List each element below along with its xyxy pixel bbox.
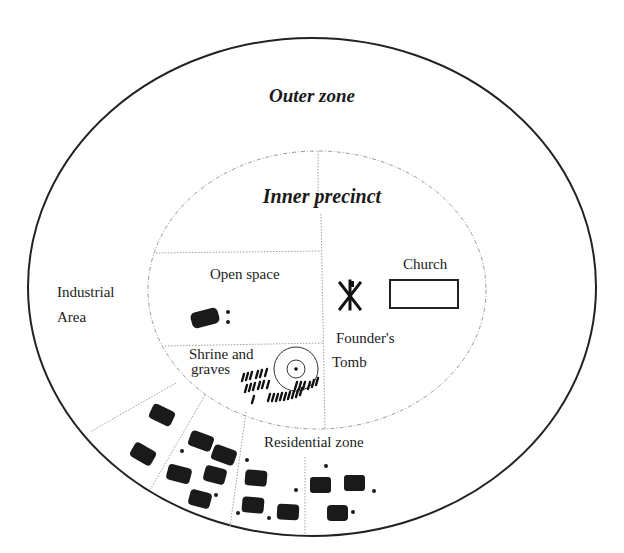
house-icon (344, 475, 365, 491)
founders-tomb-label-line2: Tomb (332, 354, 367, 370)
dot-marker (226, 310, 230, 314)
dot-marker (294, 488, 298, 492)
house-icon (327, 505, 348, 521)
dot-marker (236, 511, 240, 515)
dot-marker (214, 493, 218, 497)
inner-precinct-title: Inner precinct (262, 185, 383, 208)
dot-marker (226, 320, 230, 324)
residential-zone-label: Residential zone (264, 434, 364, 450)
dot-marker (245, 458, 249, 462)
house-icon (189, 307, 220, 330)
house-icon (165, 463, 192, 485)
open-space-label: Open space (210, 266, 280, 282)
residential-dividers (90, 383, 305, 535)
monastery-site-diagram: Outer zone Inner precinct Open space Ind… (0, 0, 624, 553)
church-building-icon (390, 280, 458, 308)
dot-marker (267, 516, 271, 520)
chi-rho-icon (340, 281, 360, 309)
house-icon (129, 441, 158, 467)
church-label: Church (403, 256, 448, 272)
house-icon (187, 488, 212, 509)
house-icon (244, 469, 267, 487)
outer-zone-title: Outer zone (269, 85, 356, 106)
dot-marker (372, 489, 376, 493)
dot-marker (351, 510, 355, 514)
dot-marker (324, 464, 328, 468)
shrine-label-line2: graves (191, 361, 230, 377)
house-icon (148, 403, 177, 428)
house-icon (210, 443, 238, 466)
house-icon (202, 464, 227, 485)
house-icon (277, 503, 300, 520)
house-icon (187, 429, 215, 452)
founders-tomb-label-line1: Founder's (336, 330, 395, 346)
shrine-label-line1: Shrine and (189, 346, 254, 362)
dot-marker (180, 449, 184, 453)
house-icon (310, 477, 331, 493)
industrial-area-label-line2: Area (57, 309, 86, 325)
graves-icon (242, 369, 318, 403)
industrial-area-label-line1: Industrial (57, 284, 115, 300)
house-icon (241, 496, 264, 514)
